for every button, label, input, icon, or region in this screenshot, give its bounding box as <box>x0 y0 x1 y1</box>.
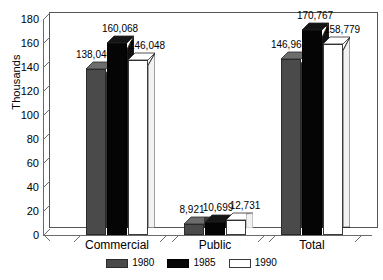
value-label: 12,731 <box>230 201 261 211</box>
bar-commercial-1980 <box>86 69 106 235</box>
bar-top-cap <box>184 217 204 224</box>
y-tick-mark <box>43 108 50 116</box>
legend-label: 1985 <box>193 258 215 268</box>
bar-face <box>86 69 106 235</box>
bar-total-1980 <box>281 59 301 235</box>
y-tick-label: 40 <box>5 182 39 193</box>
y-tick-label: 180 <box>5 14 39 25</box>
y-tick-label: 140 <box>5 62 39 73</box>
baseline-line <box>43 235 372 236</box>
legend-item-1980[interactable]: 1980 <box>106 258 154 268</box>
chart-legend: 198019851990 <box>0 258 383 268</box>
y-axis-line <box>43 19 44 235</box>
y-tick-mark <box>43 204 50 212</box>
value-label: 170,767 <box>297 11 333 21</box>
y-tick-mark <box>43 132 50 140</box>
bar-public-1985 <box>205 222 225 235</box>
x-axis-group-tick <box>74 228 81 236</box>
bar-face <box>302 30 322 235</box>
bar-face <box>323 44 343 235</box>
y-tick-label: 80 <box>5 134 39 145</box>
bar-face <box>226 220 246 235</box>
bar-side-face <box>343 37 350 228</box>
y-tick-mark <box>43 180 50 188</box>
bar-face <box>128 60 148 235</box>
bar-top-cap <box>205 215 225 222</box>
y-tick-mark <box>43 228 50 236</box>
bar-top-cap <box>226 213 246 220</box>
y-tick-label: 60 <box>5 158 39 169</box>
bar-face <box>107 43 127 235</box>
value-label: 158,779 <box>324 25 360 35</box>
y-tick-mark <box>43 60 50 68</box>
legend-item-1990[interactable]: 1990 <box>229 258 277 268</box>
bar-top-cap <box>86 62 106 69</box>
bar-commercial-1990 <box>128 60 148 235</box>
bar-top-cap <box>128 53 148 60</box>
legend-item-1985[interactable]: 1985 <box>167 258 215 268</box>
x-category-label-total: Total <box>299 238 324 252</box>
legend-label: 1990 <box>255 258 277 268</box>
x-axis-group-tick <box>355 228 362 236</box>
y-tick-label: 100 <box>5 110 39 121</box>
x-axis-group-tick <box>258 228 265 236</box>
bar-top-cap <box>302 23 322 30</box>
bar-top-cap <box>323 37 343 44</box>
value-label: 8,921 <box>179 205 204 215</box>
white-swatch <box>229 259 251 268</box>
value-label: 10,699 <box>203 203 234 213</box>
bar-face <box>184 224 204 235</box>
value-label: 146,048 <box>129 41 165 51</box>
bar-chart: Thousands 180160140120100806040200 138,0… <box>0 0 383 280</box>
x-category-label-commercial: Commercial <box>85 238 149 252</box>
bar-face <box>281 59 301 235</box>
bar-top-cap <box>107 36 127 43</box>
black-swatch <box>167 259 189 268</box>
bar-total-1990 <box>323 44 343 235</box>
y-tick-mark <box>43 12 50 20</box>
bar-face <box>205 222 225 235</box>
y-tick-label: 20 <box>5 206 39 217</box>
bar-top-cap <box>281 52 301 59</box>
gray-swatch <box>106 259 128 268</box>
x-category-label-public: Public <box>199 238 232 252</box>
y-axis-tick-labels: 180160140120100806040200 <box>5 0 39 280</box>
y-tick-label: 160 <box>5 38 39 49</box>
y-tick-mark <box>43 156 50 164</box>
x-axis-group-tick <box>172 228 179 236</box>
x-axis-group-tick <box>160 228 167 236</box>
bar-public-1980 <box>184 224 204 235</box>
y-tick-label: 120 <box>5 86 39 97</box>
bar-side-face <box>148 53 155 228</box>
y-tick-label: 0 <box>5 230 39 241</box>
value-label: 160,068 <box>102 24 138 34</box>
bar-total-1985 <box>302 30 322 235</box>
bar-public-1990 <box>226 220 246 235</box>
bar-side-face <box>246 213 253 228</box>
bar-commercial-1985 <box>107 43 127 235</box>
x-axis-group-tick <box>269 228 276 236</box>
legend-label: 1980 <box>132 258 154 268</box>
y-tick-mark <box>43 84 50 92</box>
y-tick-mark <box>43 36 50 44</box>
